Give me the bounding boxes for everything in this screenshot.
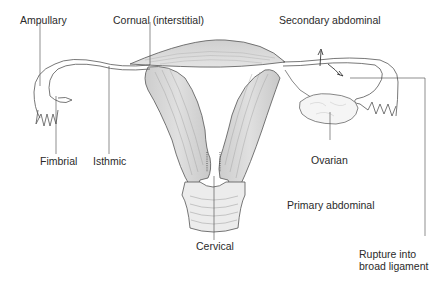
label-ovarian: Ovarian — [311, 154, 348, 166]
label-ampullary: Ampullary — [20, 14, 67, 26]
cervix — [182, 182, 245, 232]
uterine-fundus — [130, 40, 285, 67]
label-fimbrial: Fimbrial — [40, 155, 77, 167]
right-uterine-horn — [207, 70, 280, 187]
left-uterine-horn — [145, 66, 211, 186]
ovary — [285, 70, 358, 124]
label-cornual: Cornual (interstitial) — [113, 14, 204, 26]
left-fallopian-tube — [34, 59, 150, 126]
label-rupture-line2: broad ligament — [359, 260, 428, 272]
label-isthmic: Isthmic — [93, 155, 126, 167]
label-secondary-abdominal: Secondary abdominal — [279, 14, 381, 26]
ectopic-pregnancy-diagram: Ampullary Cornual (interstitial) Seconda… — [0, 0, 446, 282]
label-primary-abdominal: Primary abdominal — [287, 199, 375, 211]
label-cervical: Cervical — [196, 240, 234, 252]
label-rupture-line1: Rupture into — [359, 248, 416, 260]
